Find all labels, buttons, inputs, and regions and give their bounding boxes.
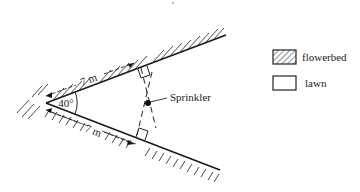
lawn-swatch [273, 76, 296, 90]
stray-dot [172, 2, 174, 4]
sprinkler-leader-line [150, 98, 167, 102]
sprinkler-diagram: 7 m 7 m 40° Sprinkler flowerbed lawn [0, 0, 360, 192]
angle-label: 40° [58, 97, 73, 109]
sprinkler-point [145, 100, 151, 106]
legend-item-flowerbed: flowerbed [273, 50, 347, 64]
lower-dim-arrow-left [46, 108, 52, 113]
angle-arc [75, 92, 77, 114]
upper-boundary [17, 28, 226, 119]
upper-dim-arrow-left [46, 92, 52, 98]
legend-label-flowerbed: flowerbed [302, 51, 347, 63]
legend: flowerbed lawn [273, 50, 347, 90]
sprinkler-label: Sprinkler [170, 91, 211, 103]
upper-length-label: 7 m [79, 71, 99, 88]
flowerbed-swatch [273, 50, 296, 64]
legend-label-lawn: lawn [305, 77, 327, 89]
legend-item-lawn: lawn [273, 76, 327, 90]
lower-boundary [45, 103, 220, 182]
